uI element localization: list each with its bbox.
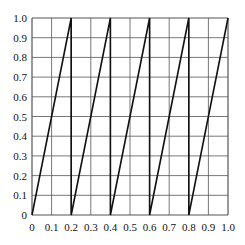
y-tick-label: 0.4 [13, 130, 27, 142]
y-axis-tick-labels: 00.10.20.30.40.50.60.70.80.91.0 [13, 12, 27, 221]
y-tick-label: 0.5 [13, 111, 27, 123]
chart: 00.10.20.30.40.50.60.70.80.91.0 00.10.20… [0, 0, 245, 245]
x-axis-tick-labels: 00.10.20.30.40.50.60.70.80.91.0 [29, 221, 235, 233]
x-tick-label: 1.0 [221, 221, 235, 233]
x-tick-label: 0.9 [202, 221, 216, 233]
y-tick-label: 0.8 [13, 51, 27, 63]
y-tick-label: 0.2 [13, 170, 27, 182]
y-tick-label: 0.7 [13, 71, 27, 83]
x-tick-label: 0.8 [182, 221, 196, 233]
x-tick-label: 0.7 [162, 221, 176, 233]
y-tick-label: 1.0 [13, 12, 27, 24]
x-tick-label: 0.4 [104, 221, 118, 233]
y-tick-label: 0.9 [13, 32, 27, 44]
x-tick-label: 0 [29, 221, 35, 233]
y-tick-label: 0.3 [13, 150, 27, 162]
y-tick-label: 0.6 [13, 91, 27, 103]
y-tick-label: 0.1 [13, 189, 27, 201]
x-tick-label: 0.2 [64, 221, 78, 233]
x-tick-label: 0.3 [84, 221, 98, 233]
x-tick-label: 0.5 [123, 221, 137, 233]
y-tick-label: 0 [22, 209, 28, 221]
x-tick-label: 0.6 [143, 221, 157, 233]
x-tick-label: 0.1 [45, 221, 59, 233]
